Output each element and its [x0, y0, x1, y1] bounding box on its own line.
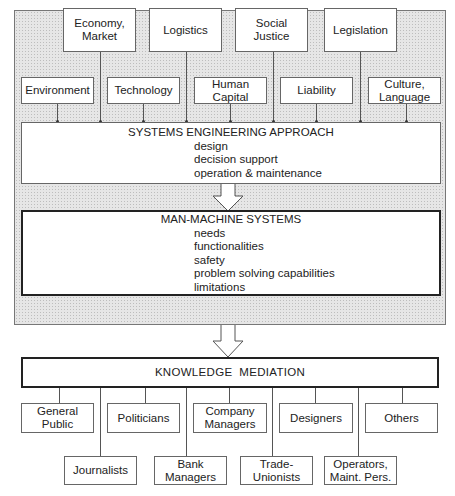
mms-item: limitations	[194, 281, 439, 295]
factor-label: Capital	[212, 91, 249, 104]
factor-economy-market: Economy,Market	[63, 8, 136, 52]
connector	[59, 388, 60, 403]
factor-label: Social	[254, 17, 290, 30]
connector	[186, 52, 187, 122]
connector	[358, 388, 359, 456]
knowledge-mediation-box: KNOWLEDGE MEDIATION	[21, 357, 439, 388]
factor-label: Logistics	[163, 24, 208, 37]
factor-social-justice: SocialJustice	[235, 8, 308, 52]
connector	[315, 388, 316, 403]
factor-label: Technology	[114, 84, 172, 97]
audience-label: Journalists	[73, 464, 128, 477]
man-machine-title: MAN-MACHINE SYSTEMS	[23, 213, 439, 227]
factor-technology: Technology	[107, 77, 180, 104]
factor-label: Culture,	[379, 78, 430, 91]
connector	[186, 388, 187, 456]
audience-label: Managers	[165, 471, 216, 484]
sea-item: decision support	[194, 153, 440, 167]
audience-trade-unionists: Trade-Unionists	[240, 456, 313, 485]
audience-label: Designers	[290, 412, 342, 425]
connector	[273, 52, 274, 122]
connector	[100, 388, 101, 456]
mms-item: needs	[194, 227, 439, 241]
audience-label: Others	[384, 412, 419, 425]
connector	[402, 388, 403, 403]
audience-operators-maint-pers: Operators,Maint. Pers.	[324, 456, 397, 485]
knowledge-mediation-title: KNOWLEDGE MEDIATION	[155, 366, 305, 380]
audience-label: Politicians	[118, 412, 170, 425]
connector	[145, 388, 146, 403]
factor-label: Legislation	[333, 24, 388, 37]
factor-label: Market	[74, 30, 124, 43]
factor-environment: Environment	[21, 77, 94, 104]
factor-label: Justice	[254, 30, 290, 43]
audience-company-managers: CompanyManagers	[193, 403, 267, 433]
factor-label: Language	[379, 91, 430, 104]
systems-engineering-title: SYSTEMS ENGINEERING APPROACH	[22, 126, 440, 140]
audience-label: Bank	[165, 458, 216, 471]
audience-label: Managers	[204, 418, 255, 431]
audience-label: Public	[37, 418, 78, 431]
factor-label: Economy,	[74, 17, 124, 30]
factor-liability: Liability	[280, 77, 353, 104]
audience-others: Others	[365, 403, 438, 433]
systems-engineering-box: SYSTEMS ENGINEERING APPROACH design deci…	[21, 122, 441, 184]
audience-label: Company	[204, 405, 255, 418]
factor-culture-language: Culture,Language	[368, 77, 441, 104]
man-machine-systems-box: MAN-MACHINE SYSTEMS needs functionalitie…	[21, 210, 441, 296]
sea-item: operation & maintenance	[194, 167, 440, 181]
factor-label: Liability	[297, 84, 335, 97]
mms-item: safety	[194, 254, 439, 268]
audience-label: Trade-	[253, 458, 300, 471]
audience-label: Maint. Pers.	[330, 471, 391, 484]
audience-label: General	[37, 405, 78, 418]
factor-legislation: Legislation	[324, 8, 397, 52]
factor-logistics: Logistics	[149, 8, 222, 52]
audience-designers: Designers	[279, 403, 353, 433]
factor-label: Human	[212, 78, 249, 91]
connector	[100, 52, 101, 122]
factor-label: Environment	[25, 84, 90, 97]
factor-human-capital: HumanCapital	[194, 77, 267, 104]
audience-label: Unionists	[253, 471, 300, 484]
mms-item: problem solving capabilities	[194, 267, 439, 281]
connector	[360, 52, 361, 122]
connector	[272, 388, 273, 456]
audience-politicians: Politicians	[107, 403, 180, 433]
sea-item: design	[194, 140, 440, 154]
mms-item: functionalities	[194, 240, 439, 254]
audience-journalists: Journalists	[64, 456, 137, 485]
connector	[229, 388, 230, 403]
audience-label: Operators,	[330, 458, 391, 471]
audience-general-public: GeneralPublic	[21, 403, 94, 433]
audience-bank-managers: BankManagers	[154, 456, 227, 485]
down-arrow-icon	[212, 184, 244, 211]
down-arrow-icon	[212, 325, 244, 357]
